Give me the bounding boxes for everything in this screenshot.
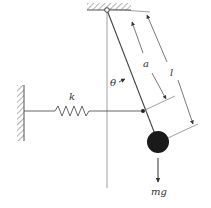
pivot xyxy=(105,8,110,13)
weight-label: mg xyxy=(151,186,167,197)
bob xyxy=(147,131,169,153)
pendulum-spring-diagram: k θ a l mg xyxy=(0,0,211,208)
spring-constant-label: k xyxy=(69,91,75,102)
spring xyxy=(24,106,143,116)
left-wall xyxy=(17,85,24,141)
extension-lines xyxy=(109,9,198,138)
dimension-a-label: a xyxy=(143,58,149,69)
dimension-l-label: l xyxy=(170,67,173,78)
spring-attachment-point xyxy=(141,109,145,113)
angle-label: θ xyxy=(110,77,116,88)
angle-arrow xyxy=(119,79,125,82)
pendulum-rod xyxy=(107,10,158,142)
